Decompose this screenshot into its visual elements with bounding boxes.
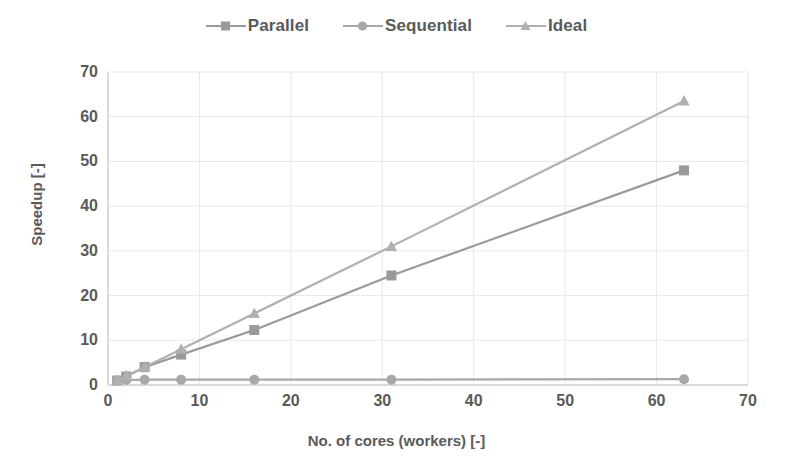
x-tick-10: 10 (179, 392, 219, 410)
series-ideal (112, 95, 690, 385)
series-parallel (112, 165, 689, 385)
speedup-chart: Parallel Sequential Ideal Speedup [-] (0, 0, 793, 472)
series-sequential (112, 374, 689, 385)
x-tick-60: 60 (637, 392, 677, 410)
x-axis-title: No. of cores (workers) [-] (0, 432, 793, 449)
x-tick-0: 0 (88, 392, 128, 410)
x-tick-20: 20 (271, 392, 311, 410)
x-tick-70: 70 (728, 392, 768, 410)
x-tick-50: 50 (545, 392, 585, 410)
x-tick-40: 40 (454, 392, 494, 410)
x-tick-30: 30 (362, 392, 402, 410)
